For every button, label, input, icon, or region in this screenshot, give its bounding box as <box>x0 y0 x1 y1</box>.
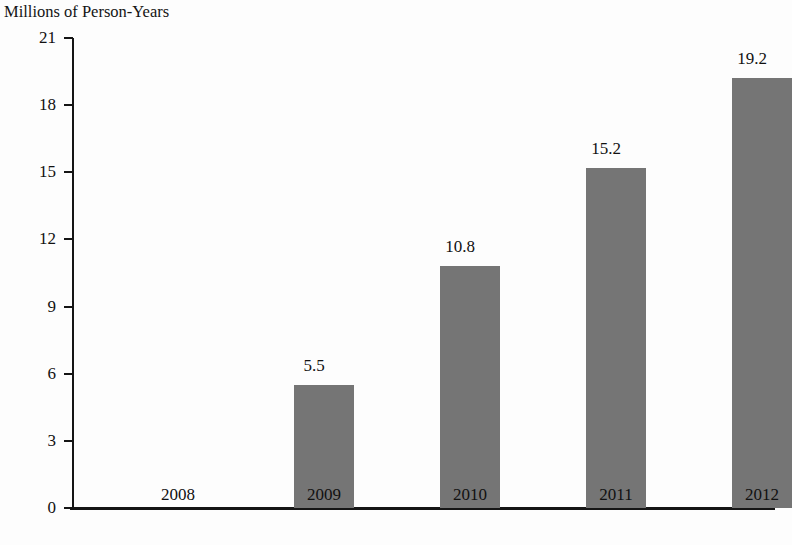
x-tick-label-2012: 2012 <box>712 486 792 504</box>
x-axis-line <box>70 507 775 510</box>
x-tick-label-2009: 2009 <box>274 486 374 504</box>
y-tick-label: 21 <box>16 29 56 46</box>
y-tick-label: 9 <box>16 298 56 315</box>
y-tick-mark <box>64 306 73 308</box>
y-tick-mark <box>64 373 73 375</box>
y-tick-mark <box>64 440 73 442</box>
y-tick-label: 3 <box>16 432 56 449</box>
x-tick-label-2011: 2011 <box>566 486 666 504</box>
bar-value-label: 19.2 <box>712 50 792 67</box>
x-tick-label-2010: 2010 <box>420 486 520 504</box>
y-tick-label: 6 <box>16 365 56 382</box>
bar-value-label: 15.2 <box>566 140 646 157</box>
y-tick-mark <box>64 507 73 509</box>
y-tick-label: 0 <box>16 499 56 516</box>
y-axis-title: Millions of Person-Years <box>4 2 169 22</box>
bar-2011 <box>586 168 646 508</box>
y-tick-label: 12 <box>16 230 56 247</box>
y-axis-line <box>72 38 74 508</box>
bar-2010 <box>440 266 500 508</box>
x-tick-label-2008: 2008 <box>128 486 228 504</box>
bar-chart: Millions of Person-Years 036912151821 5.… <box>0 0 792 545</box>
y-tick-mark <box>64 104 73 106</box>
bar-value-label: 10.8 <box>420 238 500 255</box>
y-tick-mark <box>64 171 73 173</box>
y-tick-mark <box>64 37 73 39</box>
bar-2012 <box>732 78 792 508</box>
y-tick-label: 15 <box>16 163 56 180</box>
plot-area: 036912151821 5.510.815.219.2 <box>72 38 775 508</box>
bar-value-label: 5.5 <box>274 357 354 374</box>
y-tick-label: 18 <box>16 96 56 113</box>
y-tick-mark <box>64 238 73 240</box>
